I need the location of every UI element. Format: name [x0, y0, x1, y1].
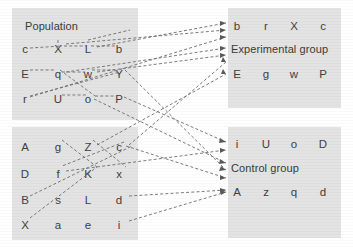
population-cell-r2c0: r — [18, 93, 32, 105]
population2-cell-r0c2: Z — [81, 141, 95, 153]
experimental-cell-r0c0: b — [230, 20, 244, 32]
control-cell-r0c2: o — [287, 138, 301, 150]
population-cell-r0c0: c — [18, 43, 32, 55]
experimental-cell-r0c2: X — [287, 20, 301, 32]
population2-cell-r1c0: D — [18, 168, 32, 180]
population2-cell-r3c2: e — [81, 219, 95, 231]
control-cell-r0c3: D — [316, 138, 330, 150]
population-cell-r1c0: E — [18, 68, 32, 80]
population2-cell-r2c0: B — [18, 194, 32, 206]
population-cell-r0c2: L — [81, 43, 95, 55]
panel-population-title: Population — [25, 20, 78, 32]
population-cell-r2c1: U — [51, 93, 65, 105]
experimental-cell-r1c3: P — [316, 68, 330, 80]
control-cell-r0c0: i — [230, 138, 244, 150]
population2-cell-r2c1: s — [51, 194, 65, 206]
population2-cell-r3c1: a — [51, 219, 65, 231]
experimental-cell-r0c1: r — [259, 20, 273, 32]
experimental-cell-r1c1: g — [259, 68, 273, 80]
population2-cell-r1c2: K — [81, 168, 95, 180]
population-cell-r1c3: Y — [112, 68, 126, 80]
population2-cell-r0c1: g — [51, 141, 65, 153]
experimental-cell-r1c2: w — [287, 68, 301, 80]
population-cell-r0c3: b — [112, 43, 126, 55]
diagram-canvas: Population c X L b E q w Y r U o P A g Z… — [0, 0, 353, 247]
population-cell-r1c1: q — [51, 68, 65, 80]
experimental-cell-r1c0: E — [230, 68, 244, 80]
population-cell-r1c2: w — [81, 68, 95, 80]
population2-cell-r2c3: d — [112, 194, 126, 206]
population-cell-r2c3: P — [112, 93, 126, 105]
population2-cell-r1c1: f — [51, 168, 65, 180]
population-cell-r2c2: o — [81, 93, 95, 105]
population2-cell-r0c0: A — [18, 141, 32, 153]
population2-cell-r2c2: L — [81, 194, 95, 206]
panel-control-group-title: Control group — [231, 162, 299, 174]
panel-experimental-group-title: Experimental group — [231, 43, 328, 55]
control-cell-r0c1: U — [259, 138, 273, 150]
population-cell-r0c1: X — [51, 43, 65, 55]
population2-cell-r3c3: i — [112, 219, 126, 231]
control-cell-r1c0: A — [230, 186, 244, 198]
population2-cell-r0c3: c — [112, 141, 126, 153]
population2-cell-r3c0: X — [18, 219, 32, 231]
control-cell-r1c3: d — [316, 186, 330, 198]
control-cell-r1c1: z — [259, 186, 273, 198]
control-cell-r1c2: q — [287, 186, 301, 198]
population2-cell-r1c3: x — [112, 168, 126, 180]
experimental-cell-r0c3: c — [316, 20, 330, 32]
